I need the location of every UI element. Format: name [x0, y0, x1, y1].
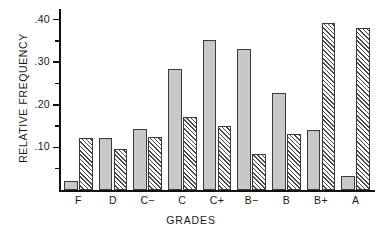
bar-C-solid-gray [168, 69, 182, 190]
y-tick-major [53, 104, 60, 106]
y-tick-label: .30 [10, 55, 50, 67]
bar-Cminus-solid-gray [133, 129, 147, 190]
y-tick-major [53, 19, 60, 21]
bars-layer [60, 11, 372, 190]
y-tick-label: .40 [10, 13, 50, 25]
x-axis-title: GRADES [0, 214, 382, 226]
x-axis-line [59, 190, 375, 192]
bar-Bplus-solid-gray [307, 130, 321, 190]
bar-A-hatched [356, 28, 370, 190]
bar-A-solid-gray [341, 176, 355, 190]
bar-B-hatched [287, 134, 301, 190]
x-tick-label: A [333, 194, 379, 206]
bar-F-hatched [79, 138, 93, 190]
y-tick-major [53, 61, 60, 63]
bar-chart: RELATIVE FREQUENCY .40.30.20.10 FDC−CC+B… [0, 0, 382, 235]
bar-B-solid-gray [272, 93, 286, 190]
bar-Bminus-solid-gray [237, 49, 251, 190]
bar-C-hatched [183, 117, 197, 190]
bar-F-solid-gray [64, 181, 78, 190]
bar-Bminus-hatched [252, 154, 266, 190]
y-tick-label: .10 [10, 140, 50, 152]
bar-D-hatched [114, 149, 128, 190]
bar-Cminus-hatched [148, 137, 162, 190]
bar-Cplus-solid-gray [203, 40, 217, 190]
bar-D-solid-gray [99, 138, 113, 190]
y-tick-label: .20 [10, 98, 50, 110]
y-tick-major [53, 147, 60, 149]
bar-Bplus-hatched [322, 23, 336, 190]
bar-Cplus-hatched [218, 126, 232, 190]
